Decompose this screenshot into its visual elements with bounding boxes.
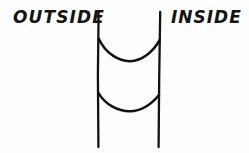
upper-arc-curve [99,39,160,62]
label-outside: OUTSIDE [13,9,105,26]
left-wall-line [98,12,99,147]
label-inside: INSIDE [171,9,242,26]
diagram-canvas: OUTSIDE INSIDE [0,0,249,153]
lower-arc-curve [98,93,159,112]
right-wall-line [159,12,161,147]
